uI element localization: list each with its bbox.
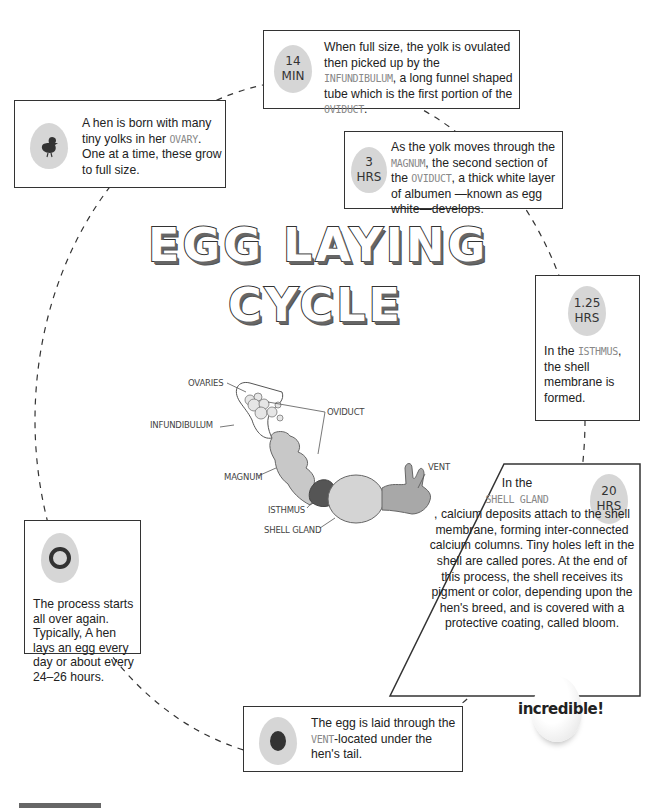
cycle-arrows-icon — [46, 544, 74, 572]
egg-yolk-badge — [259, 717, 297, 765]
incredible-label: incredible! — [518, 700, 604, 718]
step-repeat-card: The process starts all over again. Typic… — [24, 520, 141, 654]
step-repeat-text: The process starts all over again. Typic… — [33, 597, 139, 685]
step-vent-text: The egg is laid through the VENT-located… — [311, 716, 459, 763]
footer-bar — [19, 803, 101, 808]
egg-yolk-icon — [270, 731, 286, 751]
step-shell-gland-text: In the SHELL GLAND , calcium deposits at… — [408, 476, 636, 632]
cycle-badge — [41, 533, 79, 583]
step-vent-card: The egg is laid through the VENT-located… — [243, 706, 463, 772]
